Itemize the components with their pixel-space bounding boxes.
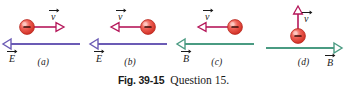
physics-figure: v E [0,0,347,96]
figure-number: Fig. 39-15 [118,74,164,86]
velocity-label-c: v [203,8,213,22]
velocity-label-b: v [116,8,126,22]
bfield-line-c [177,39,254,49]
velocity-arrow-c [198,23,228,32]
efield-line-b [90,39,167,49]
bfield-line-d [266,43,342,53]
panel-b: v E (b) [87,0,174,76]
panel-row: v E [0,0,347,76]
panel-b-label: (b) [87,56,174,68]
velocity-label-c-text: v [205,11,210,22]
figure-caption-text: Question 15. [170,74,229,86]
panel-c: v B (c) [174,0,261,76]
velocity-label-a: v [49,8,59,22]
panel-a-label: (a) [0,56,87,68]
negative-charge-b [140,20,155,35]
panel-c-label: (c) [174,56,261,68]
efield-line-a [3,39,80,49]
negative-charge-a [20,20,35,35]
velocity-label-b-text: v [118,11,123,22]
panel-a: v E [0,0,87,76]
velocity-arrow-b [111,23,141,32]
velocity-label-a-text: v [51,11,56,22]
negative-charge-d [291,29,306,44]
figure-caption: Fig. 39-15Question 15. [0,74,347,86]
panel-d: v B [260,0,347,76]
velocity-label-d: v [302,10,312,24]
velocity-label-d-text: v [304,13,309,24]
negative-charge-c [227,20,242,35]
velocity-arrow-a [34,23,64,32]
panel-d-label: (d) [260,56,347,68]
